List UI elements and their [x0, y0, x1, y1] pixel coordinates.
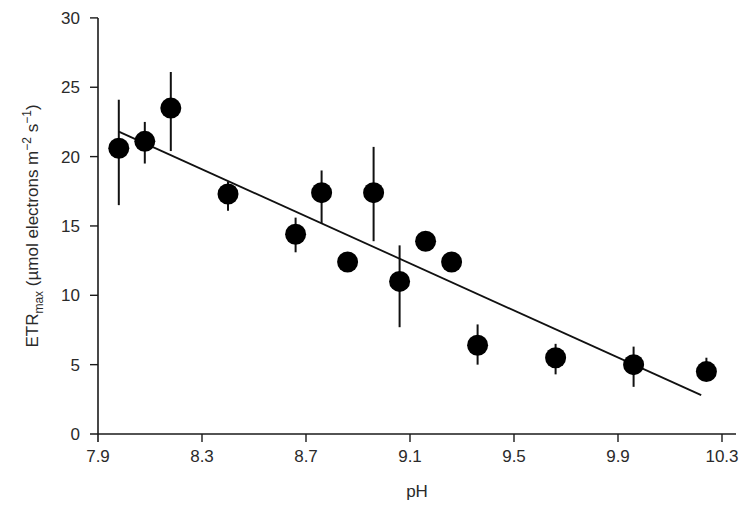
data-point [467, 324, 488, 364]
data-point [415, 231, 436, 252]
y-axis-title-main: ETR [23, 314, 42, 348]
x-axis-title: pH [406, 482, 428, 501]
filled-circle-marker [108, 138, 129, 159]
fit-line-segment [119, 132, 701, 396]
data-point [285, 218, 306, 253]
axes [90, 18, 736, 442]
data-point [218, 182, 239, 211]
filled-circle-marker [545, 347, 566, 368]
y-axis-title-units2: s [23, 124, 42, 137]
filled-circle-marker [467, 335, 488, 356]
x-axis-ticks: 7.98.38.79.19.59.910.3 [86, 434, 738, 466]
x-tick-label: 8.7 [294, 447, 318, 466]
data-point [160, 72, 181, 151]
y-axis-ticks: 051015202530 [61, 9, 98, 444]
data-point [696, 358, 717, 382]
data-point [363, 147, 384, 241]
filled-circle-marker [311, 182, 332, 203]
y-axis-title-sup2: −1 [20, 110, 34, 124]
x-tick-label: 9.9 [606, 447, 630, 466]
filled-circle-marker [160, 98, 181, 119]
data-point [623, 347, 644, 387]
filled-circle-marker [337, 252, 358, 273]
y-tick-label: 20 [61, 148, 80, 167]
data-point [337, 252, 358, 273]
y-axis-title-sup1: −2 [20, 137, 34, 151]
data-point [441, 252, 462, 273]
x-tick-label: 8.3 [190, 447, 214, 466]
x-tick-label: 7.9 [86, 447, 110, 466]
y-axis-title-subscript: max [32, 291, 46, 314]
data-point [389, 245, 410, 327]
y-tick-label: 0 [71, 425, 80, 444]
data-points [108, 72, 717, 387]
filled-circle-marker [134, 131, 155, 152]
filled-circle-marker [623, 354, 644, 375]
data-point [108, 100, 129, 205]
y-axis-title-close: ) [23, 104, 42, 110]
x-tick-label: 9.5 [502, 447, 526, 466]
y-tick-label: 10 [61, 286, 80, 305]
x-tick-label: 9.1 [398, 447, 422, 466]
data-point [311, 170, 332, 223]
regression-line [119, 132, 701, 396]
y-tick-label: 5 [71, 356, 80, 375]
y-tick-label: 25 [61, 78, 80, 97]
y-tick-label: 15 [61, 217, 80, 236]
filled-circle-marker [441, 252, 462, 273]
filled-circle-marker [285, 224, 306, 245]
y-axis-title: ETRmax (µmol electrons m−2 s−1) [20, 104, 46, 347]
scatter-chart: 7.98.38.79.19.59.910.3 051015202530 pH E… [0, 0, 750, 513]
filled-circle-marker [363, 182, 384, 203]
data-point [545, 344, 566, 375]
filled-circle-marker [696, 361, 717, 382]
x-tick-label: 10.3 [705, 447, 738, 466]
filled-circle-marker [415, 231, 436, 252]
filled-circle-marker [218, 184, 239, 205]
filled-circle-marker [389, 271, 410, 292]
y-axis-title-units: (µmol electrons m [23, 151, 42, 291]
data-point [134, 122, 155, 164]
y-tick-label: 30 [61, 9, 80, 28]
